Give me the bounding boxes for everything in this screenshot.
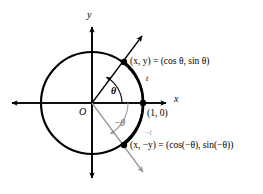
angle-negative-theta-label: −θ: [114, 117, 126, 128]
arc-t-label: t: [146, 74, 149, 83]
origin-label: O: [79, 106, 86, 117]
ray-negative-theta: [92, 103, 143, 172]
x-axis-label: x: [173, 93, 179, 104]
point-unit-dot: [140, 100, 146, 106]
arc-length-t: [124, 62, 143, 103]
point-upper-dot: [121, 59, 127, 65]
ray-theta: [92, 36, 142, 103]
point-lower-dot: [121, 142, 127, 148]
unit-circle-figure: y x O (x, y) = (cos θ, sin θ) (1, 0) (x,…: [0, 0, 263, 194]
y-axis-label: y: [86, 9, 92, 20]
point-upper-label: (x, y) = (cos θ, sin θ): [130, 56, 209, 67]
point-lower-label: (x, −y) = (cos(−θ), sin(−θ)): [130, 140, 233, 151]
angle-theta-label: θ: [111, 85, 117, 96]
arc-negative-t-label: −t: [144, 128, 152, 137]
point-unit-label: (1, 0): [147, 108, 168, 119]
arc-length-negative-t: [124, 103, 143, 145]
unit-circle-diagram: y x O (x, y) = (cos θ, sin θ) (1, 0) (x,…: [0, 0, 263, 194]
